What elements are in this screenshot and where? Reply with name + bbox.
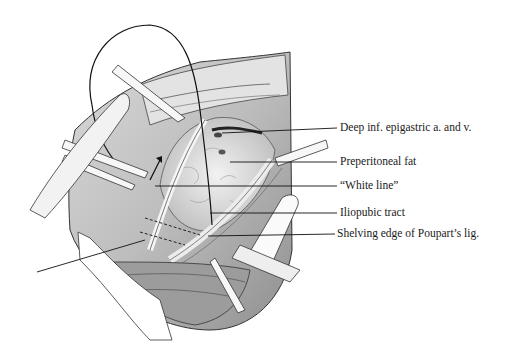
label-preperitoneal-fat: Preperitoneal fat [340, 156, 416, 168]
anatomical-illustration: Deep inf. epigastric a. and v. Preperito… [0, 0, 507, 360]
surgical-field-drawing [0, 0, 507, 360]
label-iliopubic-tract: Iliopubic tract [340, 207, 405, 219]
label-deep-inferior-epigastric: Deep inf. epigastric a. and v. [340, 122, 471, 134]
label-white-line: “White line” [340, 180, 398, 192]
label-shelving-edge: Shelving edge of Poupart’s lig. [337, 228, 479, 240]
